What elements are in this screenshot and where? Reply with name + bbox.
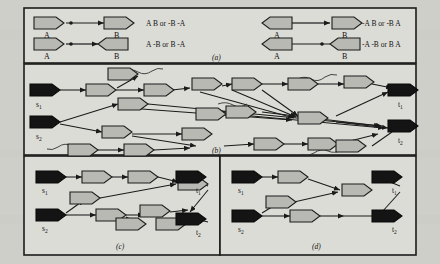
- figure-canvas: A B A B or -B -A A B A -B or B -A A: [0, 0, 440, 264]
- panel-b-caption: (b): [212, 146, 221, 155]
- figure-svg: A B A B or -B -A A B A -B or B -A A: [0, 0, 440, 264]
- panel-a-r2r-node-b-label: B: [342, 52, 347, 61]
- panel-a-row1-left-text: A B or -B -A: [146, 19, 186, 28]
- panel-d-caption: (d): [312, 242, 321, 251]
- panel-a-r2r-node-a-label: A: [274, 52, 280, 61]
- panel-c-caption: (c): [116, 242, 125, 251]
- panel-a-caption: (a): [212, 53, 221, 62]
- panel-a-row1-right-text: -A B or -B A: [362, 19, 401, 28]
- panel-a-r2l-node-a-label: A: [44, 52, 50, 61]
- panel-a-row2-right-text: -A -B or B A: [362, 40, 401, 49]
- panel-a-r2l-node-b-label: B: [114, 52, 119, 61]
- panel-a-row2-left-text: A -B or B -A: [146, 40, 186, 49]
